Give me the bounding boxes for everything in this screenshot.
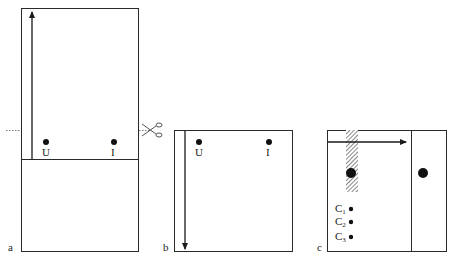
panel-a-frame bbox=[22, 9, 139, 252]
point-I-dot bbox=[111, 139, 117, 145]
figure-canvas: a U I b U I c C1 C2 C3 bbox=[0, 0, 454, 259]
cell-subscript: 3 bbox=[342, 236, 346, 244]
cell-C2-label: C2 bbox=[335, 216, 346, 229]
diagram-graphics bbox=[0, 0, 454, 259]
cell-C3-label: C3 bbox=[335, 231, 346, 244]
point-I-dot bbox=[266, 139, 272, 145]
point-U-label: U bbox=[42, 147, 50, 158]
point-U-dot bbox=[43, 139, 49, 145]
panel-b-frame bbox=[175, 131, 293, 252]
point-U-label: U bbox=[195, 147, 203, 158]
cell-C3-dot bbox=[349, 235, 353, 239]
point-I-label: I bbox=[266, 147, 270, 158]
panel-b-label: b bbox=[163, 242, 169, 253]
cell-C1-dot bbox=[349, 207, 353, 211]
cell-subscript: 2 bbox=[342, 221, 346, 229]
cell-subscript: 1 bbox=[342, 208, 346, 216]
cell-C2-dot bbox=[349, 220, 353, 224]
panel-b bbox=[175, 131, 293, 252]
point-I-label: I bbox=[111, 147, 115, 158]
large-spot-left bbox=[346, 168, 356, 178]
panel-c-label: c bbox=[317, 242, 322, 253]
panel-a bbox=[6, 9, 150, 252]
panel-a-label: a bbox=[8, 242, 13, 253]
large-spot-right bbox=[418, 168, 428, 178]
point-U-dot bbox=[196, 139, 202, 145]
hatched-strip bbox=[346, 130, 358, 192]
